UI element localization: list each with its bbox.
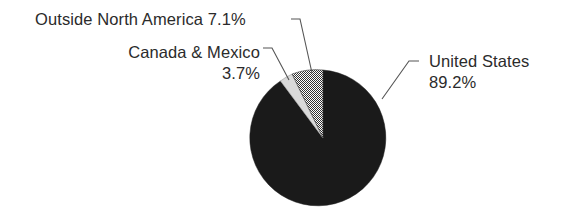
pie-label-canada-mexico-percent: 3.7%	[103, 63, 260, 84]
leader-line-outside-north-america	[291, 19, 312, 73]
pie-label-united-states-percent: 89.2%	[429, 72, 529, 93]
pie-label-united-states-name: United States	[429, 52, 529, 70]
leader-line-canada-mexico	[263, 48, 289, 80]
pie-chart-figure: Outside North America 7.1% Canada & Mexi…	[0, 0, 581, 222]
pie-label-outside-north-america: Outside North America 7.1%	[35, 9, 246, 30]
leader-line-united-states	[382, 61, 419, 99]
pie-label-canada-mexico-name: Canada & Mexico	[128, 43, 260, 61]
pie-label-canada-mexico: Canada & Mexico 3.7%	[103, 42, 260, 84]
pie-label-united-states: United States 89.2%	[429, 51, 529, 93]
pie-chart-graphic	[0, 0, 581, 222]
